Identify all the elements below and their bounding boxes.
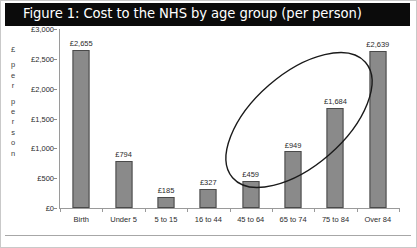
y-axis-label-char: £ [7,45,19,55]
bars-container: £2,655 £794 £185 £327 £459 £949 [60,29,399,208]
bar-45-to-64 [242,181,259,208]
y-axis-label-char: r [7,117,19,127]
bar-5-to-15 [157,197,174,208]
x-tick-label-65-to-74: 65 to 74 [280,215,307,224]
y-axis-label-char: e [7,71,19,81]
x-tick-label-under-5: Under 5 [110,215,137,224]
figure-title-bar: Figure 1: Cost to the NHS by age group (… [5,3,410,26]
bar-under-5 [115,161,132,208]
y-axis-label-char: n [7,149,19,159]
y-tick-label: £2,500 [31,54,54,63]
y-axis-label: £ p e r p e r s o n [7,45,19,159]
x-tick-mark [399,208,400,212]
x-tick-label-birth: Birth [73,215,88,224]
x-tick-mark [145,208,146,212]
bar-slot: £185 [145,29,187,208]
x-tick-label-75-to-84: 75 to 84 [322,215,349,224]
x-tick-label-5-to-15: 5 to 15 [155,215,178,224]
y-tick-label: £2,000 [31,84,54,93]
bottom-divider [5,235,411,236]
x-tick-label-over-84: Over 84 [364,215,391,224]
bar-slot: £2,639 [357,29,399,208]
y-axis-label-char: s [7,128,19,138]
x-tick-mark [187,208,188,212]
x-tick-mark [230,208,231,212]
bar-slot: £327 [187,29,229,208]
chart-plot-region: £ p e r p e r s o n £3,000 £2,500 £2,000… [1,27,417,227]
y-axis-label-char: o [7,138,19,148]
bar-birth [73,50,90,208]
y-tick-mark [53,89,57,90]
y-axis-label-char: p [7,60,19,70]
x-tick-mark [272,208,273,212]
bar-value-label: £1,684 [324,97,347,106]
bar-slot: £949 [272,29,314,208]
y-tick-mark [53,148,57,149]
y-axis-label-char: e [7,107,19,117]
bar-over-84 [369,51,386,209]
bar-value-label: £185 [158,186,175,195]
page-title: Figure 1: Cost to the NHS by age group (… [23,6,362,21]
bar-value-label: £949 [285,141,302,150]
figure-container: Figure 1: Cost to the NHS by age group (… [0,0,417,248]
bar-slot: £2,655 [60,29,102,208]
bar-value-label: £2,639 [366,40,389,49]
bar-slot: £1,684 [314,29,356,208]
y-tick-label: £500 [37,174,54,183]
x-tick-mark [102,208,103,212]
bar-75-to-84 [327,108,344,209]
y-tick-mark [53,119,57,120]
bar-slot: £794 [102,29,144,208]
y-tick-label: £3,000 [31,25,54,34]
bar-value-label: £2,655 [70,39,93,48]
y-tick-mark [53,59,57,60]
y-tick-mark [53,178,57,179]
x-tick-label-16-to-44: 16 to 44 [195,215,222,224]
bar-65-to-74 [285,151,302,208]
x-tick-mark [357,208,358,212]
bar-value-label: £459 [242,170,259,179]
bar-slot: £459 [230,29,272,208]
x-tick-label-45-to-64: 45 to 64 [237,215,264,224]
x-tick-mark [314,208,315,212]
y-tick-label: £1,000 [31,144,54,153]
bar-value-label: £327 [200,178,217,187]
bar-value-label: £794 [115,150,132,159]
x-tick-mark [60,208,61,212]
y-axis-label-char: p [7,97,19,107]
bar-16-to-44 [200,189,217,209]
y-tick-mark [53,29,57,30]
y-tick-label: £1,500 [31,114,54,123]
y-tick-mark [53,208,57,209]
y-axis-tick-labels: £3,000 £2,500 £2,000 £1,500 £1,000 £500 … [21,27,57,207]
y-axis-label-char: r [7,81,19,91]
